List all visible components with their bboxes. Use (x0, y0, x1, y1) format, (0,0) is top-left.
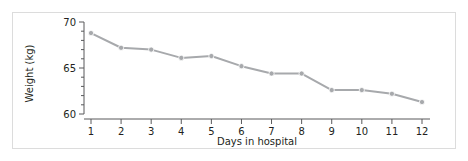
data-point[interactable] (269, 71, 274, 76)
data-point[interactable] (88, 30, 93, 35)
data-point[interactable] (299, 71, 304, 76)
data-point[interactable] (209, 53, 214, 58)
data-line (91, 33, 422, 102)
data-point[interactable] (179, 55, 184, 60)
data-point[interactable] (118, 45, 123, 50)
data-point[interactable] (389, 91, 394, 96)
data-point[interactable] (419, 99, 424, 104)
data-point[interactable] (359, 87, 364, 92)
data-point[interactable] (239, 64, 244, 69)
data-point[interactable] (149, 47, 154, 52)
y-axis-tick-label: 60 (63, 109, 76, 120)
data-point[interactable] (329, 87, 334, 92)
figure: 606570123456789101112 Weight (kg) Days i… (0, 0, 468, 161)
y-axis-title: Weight (kg) (24, 26, 35, 122)
x-axis-title: Days in hospital (91, 136, 423, 147)
y-axis-tick-label: 65 (63, 63, 76, 74)
y-axis-tick-label: 70 (63, 17, 76, 28)
